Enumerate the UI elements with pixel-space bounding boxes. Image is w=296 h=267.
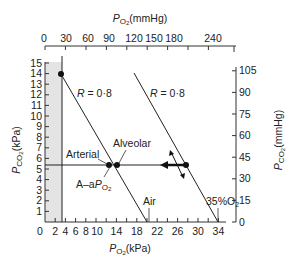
tick-label: 90 bbox=[239, 86, 251, 98]
alveolar-label: Alveolar bbox=[113, 137, 151, 149]
top-axis-ticks: 0 30 60 90 120 150 180 240 bbox=[41, 32, 222, 44]
air-label: Air bbox=[143, 195, 156, 207]
tick-label: 9 bbox=[36, 120, 42, 132]
tick-label: 4 bbox=[62, 225, 68, 237]
tick-label: 34 bbox=[213, 225, 225, 237]
bottom-axis-title: PO2(kPa) bbox=[109, 242, 151, 256]
tick-label: 8 bbox=[83, 225, 89, 237]
aa-gradient-label: A–aPO2 bbox=[76, 178, 112, 192]
svg-text:PCO2(mmHg): PCO2(mmHg) bbox=[272, 110, 286, 170]
tick-label: 0 bbox=[239, 216, 245, 228]
tick-label: 3 bbox=[36, 184, 42, 196]
shift-arrow-icon bbox=[160, 161, 184, 169]
tick-label: 5 bbox=[36, 163, 42, 175]
tick-label: 150 bbox=[145, 32, 163, 44]
shaded-region bbox=[45, 62, 62, 222]
tick-label: 1 bbox=[36, 205, 42, 217]
tick-label: 45 bbox=[239, 151, 251, 163]
tick-label: 105 bbox=[239, 64, 257, 76]
tick-label: 75 bbox=[239, 108, 251, 120]
bottom-axis-ticks: 0 2 4 6 8 10 14 18 22 26 30 34 bbox=[37, 225, 224, 237]
tick-label: 6 bbox=[36, 152, 42, 164]
tick-label: 30 bbox=[239, 172, 251, 184]
tick-label: 15 bbox=[30, 57, 42, 69]
svg-text:PCO2(kPa): PCO2(kPa) bbox=[10, 126, 24, 173]
tick-label: 2 bbox=[52, 225, 58, 237]
tick-label: 6 bbox=[73, 225, 79, 237]
tick-label: 0 bbox=[37, 225, 43, 237]
arterial-leader bbox=[98, 159, 107, 164]
tick-label: 26 bbox=[172, 225, 184, 237]
tick-label: 14 bbox=[30, 67, 42, 79]
top-axis bbox=[45, 46, 236, 52]
arterial-label: Arterial bbox=[66, 148, 99, 160]
tick-label: 7 bbox=[36, 141, 42, 153]
chart-canvas: 1 2 3 4 5 6 7 8 9 10 11 12 13 14 15 PCO2… bbox=[0, 0, 296, 267]
right-axis-ticks: 0 15 30 45 60 75 90 105 bbox=[239, 64, 257, 227]
tick-label: 14 bbox=[111, 225, 123, 237]
tick-label: 4 bbox=[36, 173, 42, 185]
tick-label: 10 bbox=[30, 110, 42, 122]
tick-label: 0 bbox=[41, 32, 47, 44]
tick-label: 15 bbox=[239, 194, 251, 206]
tick-label: 60 bbox=[82, 32, 94, 44]
tick-label: 18 bbox=[131, 225, 143, 237]
tick-label: 10 bbox=[91, 225, 103, 237]
alveolar-leader bbox=[119, 150, 126, 163]
top-axis-title: PO2(mmHg) bbox=[113, 12, 168, 26]
tick-label: 120 bbox=[125, 32, 143, 44]
arterial-point bbox=[106, 162, 112, 168]
tick-label: 30 bbox=[192, 225, 204, 237]
tick-label: 240 bbox=[204, 32, 222, 44]
r-label-air: RR = 0·8 = 0·8 bbox=[77, 87, 112, 99]
aa-leader bbox=[104, 167, 110, 177]
tick-label: 30 bbox=[60, 32, 72, 44]
tick-label: 8 bbox=[36, 131, 42, 143]
o2-35-label: 35%O2 bbox=[206, 195, 239, 208]
tick-label: 13 bbox=[30, 78, 42, 90]
start-point bbox=[58, 71, 64, 77]
tick-label: 12 bbox=[30, 88, 42, 100]
tick-label: 90 bbox=[103, 32, 115, 44]
tick-label: 2 bbox=[36, 194, 42, 206]
right-axis-title: PCO2(mmHg) bbox=[272, 110, 286, 170]
tick-label: 11 bbox=[31, 99, 42, 111]
tick-label: 60 bbox=[239, 129, 251, 141]
r-label-o2: RR = 0·8 = 0·8 bbox=[150, 87, 185, 99]
tick-label: 180 bbox=[165, 32, 183, 44]
left-axis-ticks: 1 2 3 4 5 6 7 8 9 10 11 12 13 14 15 bbox=[30, 57, 42, 217]
bottom-axis bbox=[45, 218, 226, 222]
left-axis-title: PCO2(kPa) bbox=[10, 126, 24, 173]
tick-label: 22 bbox=[151, 225, 163, 237]
